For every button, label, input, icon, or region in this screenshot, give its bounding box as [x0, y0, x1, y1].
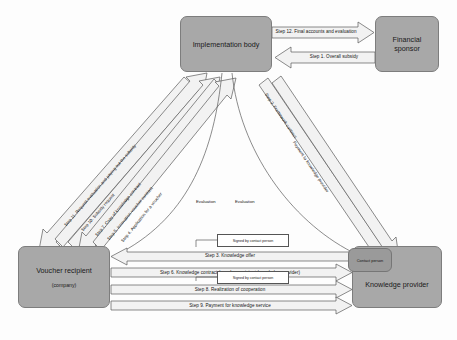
- node-implementation-body-label: Implementation body: [193, 40, 260, 49]
- signbox-bottom-label: Signed by contact person: [233, 276, 274, 280]
- node-voucher-recipient-label: Voucher recipient: [36, 266, 92, 275]
- signbox-top-label: Signed by contact person: [233, 239, 274, 243]
- node-voucher-recipient-sublabel: (company): [52, 281, 77, 289]
- signbox-top: Signed by contact person: [217, 234, 289, 247]
- arrow-step10b: [272, 76, 399, 258]
- node-voucher-recipient[interactable]: Voucher recipient (company): [18, 246, 110, 308]
- node-implementation-body[interactable]: Implementation body: [180, 16, 272, 72]
- signbox-bottom: Signed by contact person: [217, 271, 289, 284]
- label-step12: Step 12. Final accounts and evaluation: [268, 29, 364, 34]
- diagram-canvas: .ar{fill:#f2f2f2;stroke:#5a5a5a;stroke-w…: [0, 0, 457, 340]
- badge-contact-person-label: Contact person: [357, 258, 383, 263]
- node-financial-sponsor[interactable]: Financial sponsor: [375, 16, 439, 72]
- arrow-step10: [55, 73, 207, 247]
- sign-connector-top: [196, 240, 217, 247]
- label-step1: Step 1. Overall subsidy: [286, 54, 382, 59]
- badge-contact-person[interactable]: Contact person: [348, 248, 392, 272]
- label-step8: Step 8. Realization of cooperation: [120, 287, 340, 292]
- node-financial-sponsor-label-line2: sponsor: [394, 44, 420, 53]
- sign-connector-bottom: [196, 277, 217, 281]
- label-step9: Step 9. Payment for knowledge service: [120, 303, 340, 308]
- label-evaluation-left: Evaluation: [196, 199, 216, 204]
- node-financial-sponsor-label-line1: Financial: [393, 35, 422, 44]
- label-step3: Step 3. Knowledge offer: [130, 253, 330, 258]
- node-knowledge-provider-label: Knowledge provider: [365, 280, 429, 289]
- arrow-step2: [259, 78, 386, 260]
- label-evaluation-right: Evaluation: [235, 199, 255, 204]
